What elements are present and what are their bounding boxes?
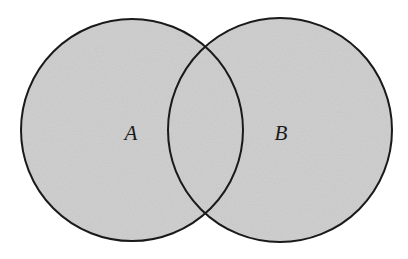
set-a-label: A [123,121,138,145]
venn-diagram: A B [0,0,408,259]
set-b-label: B [275,121,288,145]
